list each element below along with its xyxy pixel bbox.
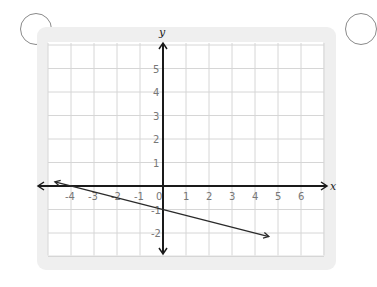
- y-tick-label: 5: [153, 64, 159, 75]
- x-tick-label: 6: [298, 191, 304, 202]
- y-tick-label: -2: [151, 228, 161, 239]
- y-tick-label: 1: [153, 158, 159, 169]
- x-tick-label: 4: [252, 191, 258, 202]
- x-tick-label: 1: [183, 191, 189, 202]
- y-tick-label: 4: [153, 87, 159, 98]
- x-tick-label: 3: [229, 191, 235, 202]
- x-tick-label: 2: [206, 191, 212, 202]
- x-tick-label: -4: [65, 191, 75, 202]
- y-tick-label: 3: [153, 111, 159, 122]
- x-tick-label: 0: [156, 191, 162, 202]
- x-tick-label: 5: [275, 191, 281, 202]
- x-tick-label: -1: [134, 191, 144, 202]
- x-axis-label: x: [330, 180, 337, 193]
- y-axis-label: y: [158, 26, 166, 39]
- y-tick-label: 2: [153, 134, 159, 145]
